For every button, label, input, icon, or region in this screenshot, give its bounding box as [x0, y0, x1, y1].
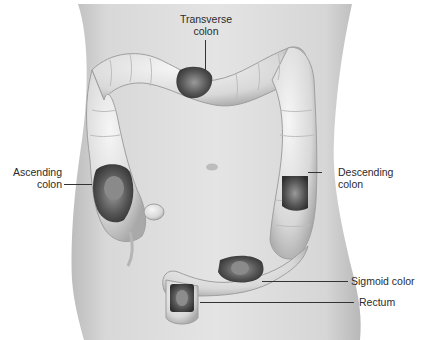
leader-transverse	[205, 40, 206, 70]
leader-descending	[308, 172, 322, 173]
label-rectum: Rectum	[359, 296, 395, 308]
label-ascending-line2: colon	[8, 178, 62, 190]
label-transverse-colon: Transverse colon	[172, 13, 240, 37]
label-transverse-line2: colon	[172, 25, 240, 37]
descending-lesion	[282, 176, 308, 211]
leader-rectum	[200, 302, 354, 303]
label-descending-colon: Descending colon	[338, 166, 393, 190]
label-descending-line2: colon	[338, 178, 393, 190]
rectum-lesion	[170, 284, 194, 312]
label-sigmoid-colon: Sigmoid color	[351, 275, 415, 287]
leader-ascending	[64, 184, 92, 185]
label-ascending-colon: Ascending colon	[8, 166, 62, 190]
leader-sigmoid	[262, 281, 348, 282]
navel	[206, 164, 218, 171]
label-descending-line1: Descending	[338, 166, 393, 178]
label-ascending-line1: Ascending	[8, 166, 62, 178]
label-transverse-line1: Transverse	[172, 13, 240, 25]
sigmoid-lesion	[218, 256, 263, 283]
